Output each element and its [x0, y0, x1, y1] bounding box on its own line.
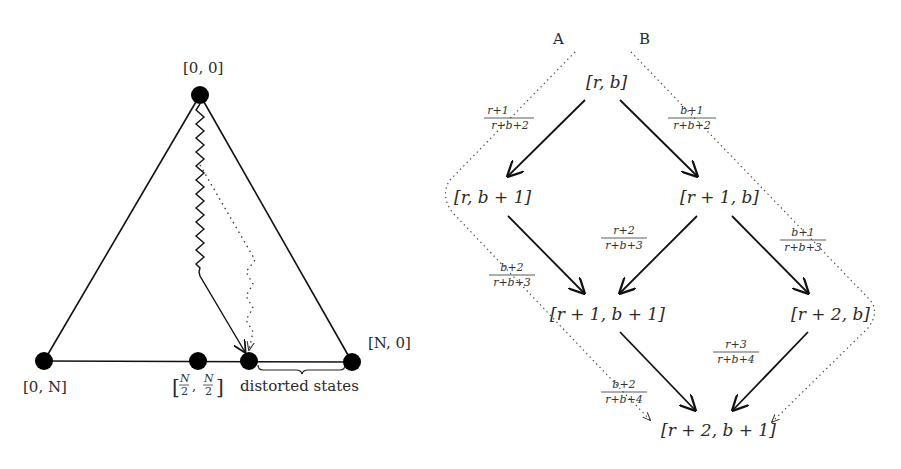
svg-text:2: 2 [205, 385, 212, 398]
node-r1-b1: [r + 1, b + 1] [550, 304, 665, 324]
svg-text:r+b+3: r+b+3 [493, 276, 531, 289]
label-top-vertex: [0, 0] [183, 59, 223, 77]
zigzag-trajectory [196, 104, 245, 352]
svg-text:b+2: b+2 [612, 378, 635, 391]
prob-r1b1-to-r2b1: b+2 r+b+4 [601, 378, 647, 406]
svg-text:r+2: r+2 [613, 224, 634, 237]
svg-text:r+b+2: r+b+2 [491, 119, 529, 132]
label-bottom-right-vertex: [N, 0] [368, 334, 411, 352]
svg-text:r+b+4: r+b+4 [717, 353, 755, 366]
svg-text:r+3: r+3 [725, 338, 746, 351]
simplex-diagram: [0, 0] [0, N] [N, 0] [ N 2 , N 2 ] disto… [23, 59, 411, 399]
edge-right [200, 95, 352, 362]
svg-text:b+1: b+1 [791, 226, 814, 239]
node-r-b: [r, b] [586, 72, 628, 92]
node-r2-b1: [r + 2, b + 1] [661, 420, 776, 440]
vertex-bottom-left [35, 352, 53, 370]
distorted-states-brace [258, 365, 345, 374]
prob-r2b-to-r2b1: r+3 r+b+4 [713, 338, 759, 366]
prob-rb-to-rb1: r+1 r+b+2 [484, 104, 534, 132]
svg-text:r+b+3: r+b+3 [784, 241, 822, 254]
prob-r1b-to-r2b: b+1 r+b+3 [780, 226, 826, 254]
edge-left [44, 95, 200, 361]
arrow-rb-to-rb1 [508, 100, 585, 176]
node-r1-b: [r + 1, b] [680, 187, 759, 207]
svg-text:r+b+2: r+b+2 [673, 119, 711, 132]
svg-text:]: ] [216, 375, 224, 399]
label-distorted-states: distorted states [240, 377, 359, 395]
prob-rb-to-r1b: b+1 r+b+2 [668, 104, 716, 132]
svg-text:r+b+3: r+b+3 [605, 239, 643, 252]
node-r2-b: [r + 2, b] [791, 304, 870, 324]
figure-canvas: [0, 0] [0, N] [N, 0] [ N 2 , N 2 ] disto… [0, 0, 901, 469]
svg-text:N: N [179, 372, 190, 385]
svg-text:b+1: b+1 [680, 104, 703, 117]
label-bottom-left-vertex: [0, N] [23, 378, 67, 396]
label-midpoint: [ N 2 , N 2 ] [172, 372, 224, 399]
lattice-diagram: A B [r, b] [r, b + 1] [r + 1, b] [r + 1,… [445, 30, 874, 440]
vertex-top [191, 86, 209, 104]
svg-text:r+b+4: r+b+4 [605, 393, 643, 406]
svg-text:[: [ [172, 375, 180, 399]
svg-text:r+1: r+1 [487, 104, 508, 117]
path-label-a: A [552, 30, 564, 48]
prob-rb1-to-r1b1: b+2 r+b+3 [489, 261, 535, 289]
vertex-distorted-start [240, 352, 258, 370]
svg-text:b+2: b+2 [500, 261, 523, 274]
svg-text:2: 2 [181, 385, 188, 398]
svg-text:,: , [192, 378, 196, 393]
prob-r1b-to-r1b1: r+2 r+b+3 [601, 224, 647, 252]
vertex-bottom-right [343, 353, 361, 371]
svg-text:N: N [203, 372, 214, 385]
node-r-b1: [r, b + 1] [454, 187, 531, 207]
path-label-b: B [639, 30, 650, 48]
vertex-midpoint [189, 352, 207, 370]
